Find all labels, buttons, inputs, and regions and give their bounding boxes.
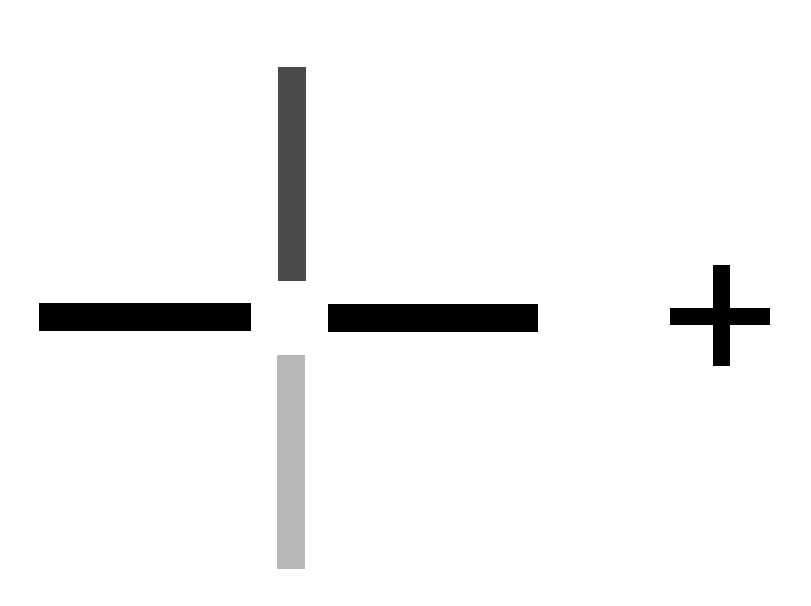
bottom-arm: [277, 355, 305, 569]
left-arm: [39, 303, 251, 331]
plus-vertical-bar: [713, 265, 730, 366]
top-arm: [278, 67, 306, 281]
stimulus-canvas: [0, 0, 811, 606]
right-arm: [328, 304, 538, 332]
